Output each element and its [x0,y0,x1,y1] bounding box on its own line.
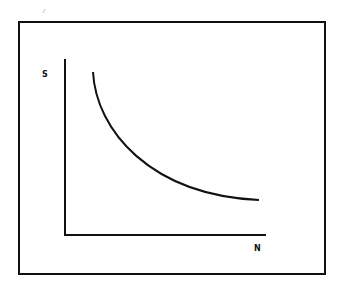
x-axis-label: N [254,244,261,253]
diagram-canvas: S N [0,0,340,287]
y-axis-label: S [42,70,48,79]
stray-mark [43,9,45,13]
s-n-curve [93,72,259,200]
